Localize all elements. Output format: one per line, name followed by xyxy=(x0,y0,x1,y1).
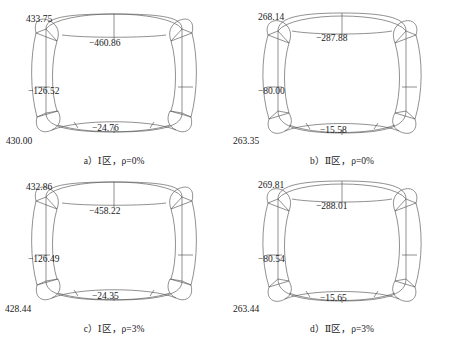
label-crown-c: −458.22 xyxy=(89,206,120,216)
label-crown-a: −460.86 xyxy=(89,38,120,48)
caption-panel-c: c）Ⅰ区，ρ=3% xyxy=(0,324,228,335)
label-sidewall-d: −80.54 xyxy=(258,254,285,264)
label-haunch-lower-a: 430.00 xyxy=(6,136,32,146)
caption-panel-b: b）Ⅱ区，ρ=0% xyxy=(228,156,456,167)
label-invert-d: −15.65 xyxy=(320,293,347,303)
label-sidewall-a: −126.52 xyxy=(28,86,59,96)
panel-c: 432.86 −458.22 −126.49 −24.35 428.44 c）Ⅰ… xyxy=(0,169,228,337)
figure-root: 433.75 −460.86 −126.52 −24.76 430.00 a）Ⅰ… xyxy=(0,0,456,337)
label-haunch-upper-b: 268.14 xyxy=(258,12,284,22)
label-sidewall-b: −80.00 xyxy=(258,86,285,96)
label-haunch-upper-c: 432.86 xyxy=(26,182,52,192)
caption-panel-a: a）Ⅰ区，ρ=0% xyxy=(0,156,228,167)
label-haunch-lower-b: 263.35 xyxy=(233,136,259,146)
panel-d: 269.81 −288.01 −80.54 −15.65 263.44 d）Ⅱ区… xyxy=(228,169,456,337)
label-crown-d: −288.01 xyxy=(316,201,347,211)
label-haunch-lower-d: 263.44 xyxy=(233,304,259,314)
panel-b: 268.14 −287.88 −80.00 −15.58 263.35 b）Ⅱ区… xyxy=(228,1,456,169)
label-sidewall-c: −126.49 xyxy=(28,254,59,264)
label-haunch-lower-c: 428.44 xyxy=(5,304,31,314)
label-haunch-upper-d: 269.81 xyxy=(258,180,284,190)
label-invert-c: −24.35 xyxy=(92,291,119,301)
label-invert-a: −24.76 xyxy=(92,123,119,133)
caption-panel-d: d）Ⅱ区，ρ=3% xyxy=(228,324,456,335)
label-haunch-upper-a: 433.75 xyxy=(26,14,52,24)
label-crown-b: −287.88 xyxy=(316,33,347,43)
panel-a: 433.75 −460.86 −126.52 −24.76 430.00 a）Ⅰ… xyxy=(0,1,228,169)
label-invert-b: −15.58 xyxy=(320,125,347,135)
